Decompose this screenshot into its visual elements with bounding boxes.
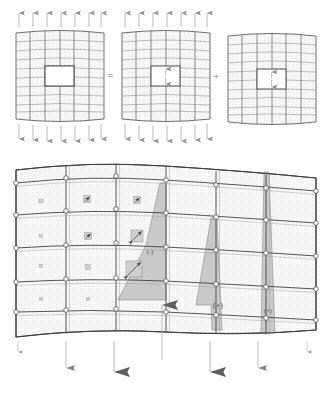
stress-marker-r3c2 [86, 265, 91, 270]
stress-marker-r3c3 [126, 261, 142, 277]
mesh-panel3 [228, 33, 316, 125]
sign-label-minus: (-) [147, 248, 154, 256]
stress-marker-r1c2 [84, 196, 91, 203]
stress-marker-r2c2 [85, 233, 92, 240]
panel-plate-hole-correction [228, 33, 316, 125]
mesh-panel2 [122, 30, 210, 122]
operator-equals: = [107, 69, 113, 81]
stress-marker-r2c3 [131, 230, 143, 242]
mesh-panel1 [16, 30, 104, 122]
operator-plus: + [213, 70, 219, 82]
stress-marker-r2c1 [40, 235, 43, 238]
figure-root: = [0, 0, 331, 395]
stress-marker-r1c3 [134, 197, 141, 204]
sign-label-plus-2: (+) [264, 307, 272, 315]
stress-marker-r1c1 [39, 199, 43, 203]
stress-marker-r3c1 [40, 265, 43, 268]
stress-marker-r4c2 [87, 298, 90, 301]
sign-label-plus-1: (+) [213, 301, 223, 310]
engineering-diagram-svg: = [0, 0, 331, 395]
stress-marker-r4c1 [40, 298, 43, 301]
